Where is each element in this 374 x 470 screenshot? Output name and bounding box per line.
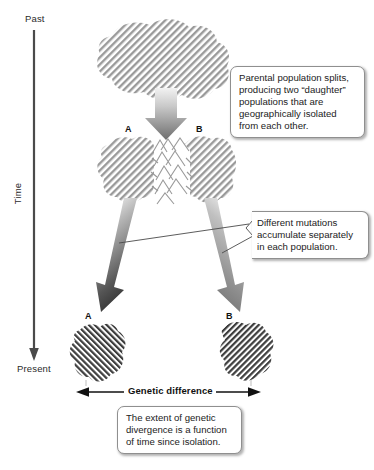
- diverge-arrow-a: [96, 198, 137, 312]
- present-population-b: [220, 322, 274, 381]
- population-label-b-present: B: [226, 311, 233, 321]
- time-axis-name: Time: [12, 174, 23, 214]
- callout-different-mutations: Different mutations accumulate separatel…: [252, 211, 369, 259]
- callout-extent-of-divergence: The extent of genetic divergence is a fu…: [117, 406, 242, 454]
- population-label-a-present: A: [85, 311, 92, 321]
- population-label-b-middle: B: [196, 124, 203, 134]
- population-label-a-middle: A: [125, 124, 132, 134]
- mountain-range-barrier: [151, 138, 192, 204]
- middle-population-a: [97, 137, 156, 203]
- mutation-leader-lines: [119, 220, 253, 253]
- callout-parental-split: Parental population splits, producing tw…: [230, 66, 365, 138]
- time-axis-present-label: Present: [17, 363, 51, 374]
- genetic-difference-label: Genetic difference: [128, 385, 213, 396]
- diverge-arrow-b: [204, 198, 244, 312]
- time-axis: [29, 30, 39, 361]
- parental-population-blob: [97, 19, 229, 99]
- present-population-a: [70, 324, 126, 382]
- time-axis-past-label: Past: [25, 13, 45, 24]
- speciation-diagram: Past Time Present A B A B Genetic differ…: [0, 0, 374, 470]
